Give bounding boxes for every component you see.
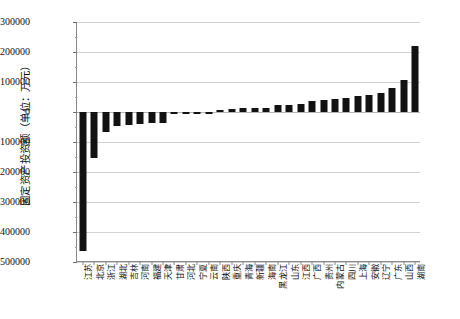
x-label-text: 江苏 xyxy=(85,264,93,281)
x-axis-category-label: 广东 xyxy=(395,264,403,281)
x-axis-category-label: 福建 xyxy=(154,264,162,281)
bar[interactable] xyxy=(251,108,258,112)
bar-slot xyxy=(318,22,329,261)
y-tick-mark xyxy=(73,82,77,83)
bar[interactable] xyxy=(343,98,350,112)
x-axis-category-label: 河北 xyxy=(188,264,196,281)
x-axis-category-label: 辽宁 xyxy=(383,264,391,281)
bar-chart: 固定资产投资额（单位：万元） 3000002000001000000-10000… xyxy=(0,0,460,319)
y-minor-tick-mark xyxy=(75,187,78,188)
bar[interactable] xyxy=(320,100,327,112)
y-tick-mark xyxy=(73,262,77,263)
x-label-text: 新疆 xyxy=(257,264,265,281)
x-label-text: 山东 xyxy=(292,264,300,281)
bar-slot xyxy=(398,22,409,261)
x-label-text: 青海 xyxy=(246,264,254,281)
x-label-text: 陕西 xyxy=(223,264,231,281)
x-axis-category-label: 吉林 xyxy=(131,264,139,281)
bar-slot xyxy=(88,22,99,261)
bar-slot xyxy=(134,22,145,261)
bar-slot xyxy=(249,22,260,261)
y-minor-tick-mark xyxy=(75,127,78,128)
x-label-text: 云南 xyxy=(211,264,219,281)
y-tick-mark xyxy=(73,172,77,173)
x-label-text: 河北 xyxy=(188,264,196,281)
bar[interactable] xyxy=(389,88,396,112)
x-axis-category-label: 内蒙古 xyxy=(337,264,345,290)
y-minor-tick-mark xyxy=(75,97,78,98)
bar[interactable] xyxy=(79,112,86,251)
x-label-text: 宁夏 xyxy=(200,264,208,281)
bar-slot xyxy=(352,22,363,261)
x-label-text: 浙江 xyxy=(108,264,116,281)
bar[interactable] xyxy=(137,112,144,124)
bar-slot xyxy=(157,22,168,261)
bar-slot xyxy=(238,22,249,261)
bar[interactable] xyxy=(91,112,98,158)
bar-slot xyxy=(77,22,88,261)
x-axis-category-label: 黑龙江 xyxy=(280,264,288,290)
bar[interactable] xyxy=(274,105,281,112)
bar[interactable] xyxy=(228,109,235,112)
bar[interactable] xyxy=(125,112,132,125)
bar-slot xyxy=(329,22,340,261)
bar[interactable] xyxy=(148,112,155,123)
x-axis-category-label: 湖北 xyxy=(120,264,128,281)
bar-slot xyxy=(272,22,283,261)
bar[interactable] xyxy=(194,112,201,114)
x-label-text: 黑龙江 xyxy=(280,264,288,290)
x-axis-category-label: 天津 xyxy=(165,264,173,281)
x-label-text: 广东 xyxy=(395,264,403,281)
bar-slot xyxy=(364,22,375,261)
bar[interactable] xyxy=(102,112,109,132)
bar[interactable] xyxy=(263,108,270,113)
x-label-text: 甘肃 xyxy=(177,264,185,281)
bar[interactable] xyxy=(400,80,407,112)
x-label-text: 河南 xyxy=(142,264,150,281)
bar[interactable] xyxy=(286,105,293,112)
bar[interactable] xyxy=(182,112,189,114)
x-axis-category-label: 山西 xyxy=(406,264,414,281)
bar[interactable] xyxy=(217,110,224,112)
bar[interactable] xyxy=(114,112,121,126)
bar-slot xyxy=(341,22,352,261)
bar[interactable] xyxy=(309,101,316,112)
x-axis-category-label: 宁夏 xyxy=(200,264,208,281)
bar-slot xyxy=(192,22,203,261)
x-label-text: 四川 xyxy=(349,264,357,281)
bar-slot xyxy=(203,22,214,261)
bar[interactable] xyxy=(297,104,304,112)
x-axis-category-label: 新疆 xyxy=(257,264,265,281)
x-label-text: 重庆 xyxy=(234,264,242,281)
bar[interactable] xyxy=(159,112,166,123)
plot-area: 3000002000001000000-100000-200000-300000… xyxy=(76,22,420,262)
bar-slot xyxy=(295,22,306,261)
bar-slot xyxy=(215,22,226,261)
y-tick-mark xyxy=(73,52,77,53)
x-label-text: 江西 xyxy=(303,264,311,281)
bar[interactable] xyxy=(377,93,384,112)
bar-slot xyxy=(123,22,134,261)
bar[interactable] xyxy=(240,108,247,112)
x-label-text: 北京 xyxy=(97,264,105,281)
x-axis-category-label: 广西 xyxy=(314,264,322,281)
bar-slot xyxy=(169,22,180,261)
x-axis-category-label: 青海 xyxy=(246,264,254,281)
bar[interactable] xyxy=(366,95,373,112)
x-axis-category-label: 北京 xyxy=(97,264,105,281)
x-axis-category-label: 海南 xyxy=(269,264,277,281)
x-axis-category-label: 重庆 xyxy=(234,264,242,281)
x-label-text: 湖北 xyxy=(120,264,128,281)
x-label-text: 广西 xyxy=(314,264,322,281)
bar-slot xyxy=(111,22,122,261)
bar-slot xyxy=(260,22,271,261)
x-axis-category-label: 浙江 xyxy=(108,264,116,281)
bar-slot xyxy=(100,22,111,261)
bar[interactable] xyxy=(205,112,212,114)
bar[interactable] xyxy=(331,99,338,112)
bar-slot xyxy=(226,22,237,261)
bar[interactable] xyxy=(171,112,178,114)
bar[interactable] xyxy=(412,46,419,112)
bar[interactable] xyxy=(354,96,361,112)
x-label-text: 天津 xyxy=(165,264,173,281)
